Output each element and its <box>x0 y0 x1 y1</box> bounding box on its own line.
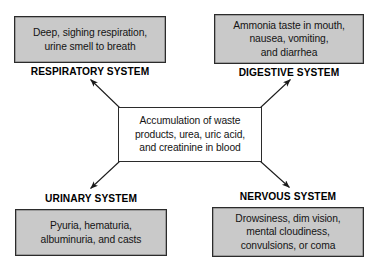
center-box-text: Accumulation of wasteproducts, urea, uri… <box>130 114 250 154</box>
symptom-box-digestive: Ammonia taste in mouth,nausea, vomiting,… <box>214 14 364 64</box>
system-label-nervous: NERVOUS SYSTEM <box>212 191 364 203</box>
system-label-respiratory: RESPIRATORY SYSTEM <box>14 66 166 78</box>
system-label-digestive: DIGESTIVE SYSTEM <box>214 67 364 79</box>
symptom-text-respiratory: Deep, sighing respiration,urine smell to… <box>29 26 151 52</box>
symptom-text-nervous: Drowsiness, dim vision,mental cloudiness… <box>231 212 344 252</box>
symptom-box-urinary: Pyuria, hematuria,albuminuria, and casts <box>15 209 167 256</box>
uremia-symptoms-diagram: Deep, sighing respiration,urine smell to… <box>0 0 378 272</box>
arrow-center-to-urinary <box>91 161 121 189</box>
symptom-text-urinary: Pyuria, hematuria,albuminuria, and casts <box>37 219 146 245</box>
symptom-box-respiratory: Deep, sighing respiration,urine smell to… <box>14 16 166 63</box>
system-label-urinary: URINARY SYSTEM <box>15 193 167 205</box>
symptom-text-digestive: Ammonia taste in mouth,nausea, vomiting,… <box>229 19 349 59</box>
arrow-center-to-nervous <box>260 161 290 188</box>
symptom-box-nervous: Drowsiness, dim vision,mental cloudiness… <box>212 207 364 257</box>
center-box-accumulation: Accumulation of wasteproducts, urea, uri… <box>118 107 262 162</box>
arrow-center-to-digestive <box>260 80 291 109</box>
arrow-center-to-respiratory <box>91 80 121 109</box>
